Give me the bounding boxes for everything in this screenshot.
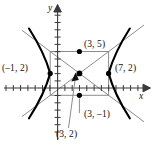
point-3-neg1 <box>77 93 82 98</box>
point-7-2 <box>106 71 111 76</box>
point-3-5 <box>77 49 82 54</box>
label-point-7-2: (7, 2) <box>115 64 136 74</box>
label-point-center-3-2: (3, 2) <box>56 130 77 140</box>
x-axis-arrowhead <box>143 84 151 92</box>
point-neg1-2 <box>48 71 53 76</box>
asymptote-negative-slope <box>22 30 144 122</box>
hyperbola-figure: y x (3, 5) (–1, 2) (7, 2) (3, –1) (3, 2) <box>0 0 154 145</box>
label-point-neg1-2: (–1, 2) <box>2 64 28 74</box>
hyperbola-left-branch <box>29 29 50 119</box>
x-axis-label: x <box>139 92 143 102</box>
label-point-3-5: (3, 5) <box>84 40 105 50</box>
y-axis-arrowhead <box>54 5 62 13</box>
label-point-3-neg1: (3, –1) <box>84 110 110 120</box>
y-axis-label: y <box>48 4 52 14</box>
point-center-3-2 <box>77 71 83 77</box>
